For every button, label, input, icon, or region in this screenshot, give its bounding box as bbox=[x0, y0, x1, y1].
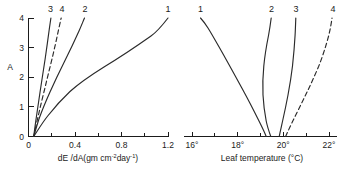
left-xtick-label-0p4: 0.4 bbox=[69, 140, 81, 150]
left-curve-label-1: 1 bbox=[165, 4, 170, 14]
left-ytick-label-4: 4 bbox=[19, 13, 24, 23]
left-ytick-label-2: 2 bbox=[19, 72, 24, 82]
left-curve-label-3: 3 bbox=[48, 4, 53, 14]
right-xtick-label-20: 20° bbox=[277, 140, 290, 150]
right-curve-4 bbox=[286, 18, 332, 137]
figure-container: 0 1 2 3 4 0 0.4 0.8 1.2 A dE /dA(gm cm-2… bbox=[0, 0, 347, 172]
right-x-axis-title: Leaf temperature (°C) bbox=[221, 153, 303, 163]
right-chart-svg: 16° 18° 20° 22° Leaf temperature (°C) 1 … bbox=[172, 0, 347, 172]
left-xtick-label-0p8: 0.8 bbox=[116, 140, 128, 150]
right-x-ticks bbox=[192, 132, 329, 137]
x-axis-title-main: dE /dA(gm cm bbox=[58, 153, 112, 163]
left-curve-label-2: 2 bbox=[82, 4, 87, 14]
left-curve-1 bbox=[34, 18, 168, 137]
right-curve-label-2: 2 bbox=[269, 4, 274, 14]
left-ytick-label-0: 0 bbox=[19, 132, 24, 142]
x-axis-title-close: ) bbox=[135, 153, 138, 163]
right-curve-label-1: 1 bbox=[198, 4, 203, 14]
left-xtick-label-0: 0 bbox=[26, 140, 31, 150]
x-axis-title-mid: day bbox=[117, 153, 131, 163]
chart-panel-right: 16° 18° 20° 22° Leaf temperature (°C) 1 … bbox=[172, 0, 347, 172]
left-y-ticks bbox=[29, 18, 34, 137]
left-y-axis-title: A bbox=[7, 62, 13, 72]
left-curve-label-4: 4 bbox=[59, 4, 64, 14]
chart-panel-left: 0 1 2 3 4 0 0.4 0.8 1.2 A dE /dA(gm cm-2… bbox=[0, 0, 175, 172]
right-xtick-label-22: 22° bbox=[323, 140, 336, 150]
left-x-ticks bbox=[29, 132, 169, 137]
right-xtick-label-18: 18° bbox=[231, 140, 244, 150]
right-curve-2 bbox=[263, 18, 271, 137]
right-curve-label-3: 3 bbox=[293, 4, 298, 14]
right-curve-1 bbox=[201, 18, 267, 137]
left-x-axis-title: dE /dA(gm cm-2day-1) bbox=[58, 153, 139, 163]
left-ytick-label-3: 3 bbox=[19, 43, 24, 53]
right-xtick-label-16: 16° bbox=[186, 140, 199, 150]
left-curve-3 bbox=[34, 18, 51, 137]
left-chart-svg: 0 1 2 3 4 0 0.4 0.8 1.2 A dE /dA(gm cm-2… bbox=[0, 0, 175, 172]
left-ytick-label-1: 1 bbox=[19, 102, 24, 112]
right-curve-label-4: 4 bbox=[330, 4, 335, 14]
left-curve-2 bbox=[34, 18, 85, 137]
